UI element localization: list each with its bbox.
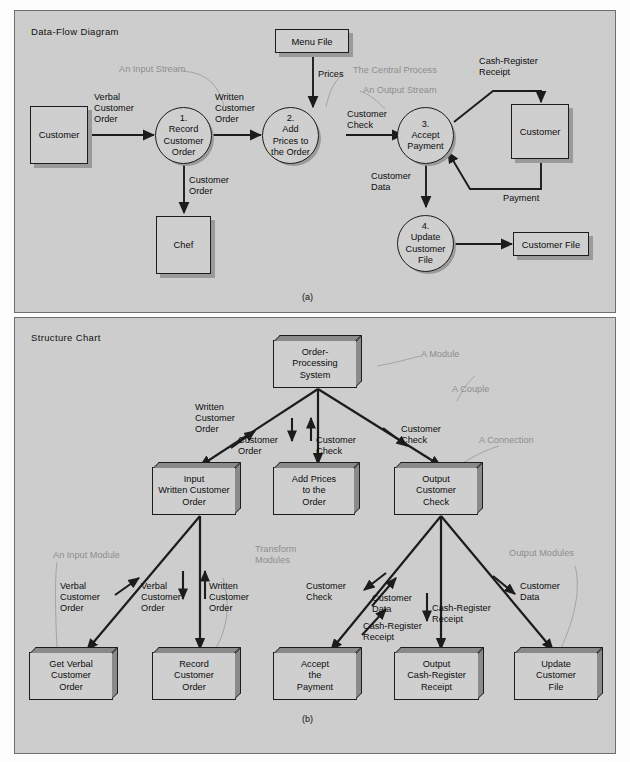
flow-prices: Prices	[318, 69, 344, 80]
flow-customer-order: Customer Order	[189, 175, 229, 197]
couple-verbal-customer-order-b: Verbal Customer Order	[141, 581, 181, 615]
couple-customer-data-b: Customer Data	[520, 581, 560, 603]
module-top-face	[395, 462, 483, 468]
annotation-an-input-module: An Input Module	[53, 550, 120, 561]
couple-customer-order-top: Customer Order	[238, 435, 278, 457]
annotation-transform-modules: Transform Modules	[255, 544, 297, 566]
module-top-face	[30, 647, 118, 653]
process-3-text: 3.Accept Payment	[407, 119, 443, 153]
process-3: 3.Accept Payment	[397, 107, 454, 164]
module-output-cash-register-receipt: Output Cash-Register Receipt	[394, 652, 479, 700]
module-label: Output Customer Check	[416, 474, 456, 508]
module-side-face	[235, 462, 241, 514]
couple-customer-data-a: Customer Data	[372, 593, 412, 615]
process-2: 2.Add Prices to the Order	[262, 107, 319, 164]
caption-b: (b)	[302, 714, 313, 724]
module-update-customer-file: Update Customer File	[514, 652, 598, 700]
module-top-face	[395, 647, 484, 653]
annotation-a-connection: A Connection	[479, 435, 534, 446]
module-label: Record Customer Order	[174, 659, 214, 693]
module-label: Accept the Payment	[297, 659, 333, 693]
caption-a: (a)	[302, 292, 313, 302]
process-2-text: 2.Add Prices to the Order	[271, 113, 310, 158]
couple-written-customer-order-top: Written Customer Order	[195, 402, 235, 436]
module-label: Add Prices to the Order	[292, 474, 336, 508]
figure-page: Data-Flow Diagram	[0, 0, 630, 762]
flow-cash-register-receipt: Cash-Register Receipt	[479, 56, 538, 78]
process-4-text: 4.Update Customer File	[406, 221, 446, 266]
entity-customer-right: Customer	[511, 104, 569, 159]
module-get-verbal-customer-order: Get Verbal Customer Order	[29, 652, 113, 700]
couple-customer-check-top: Customer Check	[316, 435, 356, 457]
annotation-a-module: A Module	[421, 349, 459, 360]
module-label: Input Written Customer Order	[158, 474, 229, 508]
module-side-face	[235, 647, 241, 699]
module-top-face	[274, 335, 362, 341]
module-top-face	[153, 647, 241, 653]
flow-customer-data: Customer Data	[371, 171, 411, 193]
couple-customer-check-right: Customer Check	[401, 424, 441, 446]
module-side-face	[356, 335, 362, 387]
panel-data-flow-diagram: Data-Flow Diagram	[14, 10, 616, 313]
module-side-face	[477, 462, 483, 514]
couple-verbal-customer-order-a: Verbal Customer Order	[60, 581, 100, 615]
flow-customer-check: Customer Check	[347, 109, 387, 131]
annotation-central-process: The Central Process	[353, 65, 437, 76]
module-top-face	[274, 462, 360, 468]
store-menu-file: Menu File	[275, 29, 349, 53]
module-side-face	[356, 647, 362, 699]
module-label: Output Cash-Register Receipt	[407, 659, 466, 693]
module-accept-the-payment: Accept the Payment	[273, 652, 357, 700]
module-order-processing-system: Order- Processing System	[273, 340, 357, 388]
module-input-written-customer-order: Input Written Customer Order	[152, 467, 236, 515]
entity-customer-left: Customer	[30, 106, 88, 164]
store-customer-file: Customer File	[513, 232, 589, 256]
flow-payment: Payment	[503, 193, 539, 204]
module-label: Update Customer File	[536, 659, 576, 693]
module-output-customer-check: Output Customer Check	[394, 467, 478, 515]
entity-chef: Chef	[156, 216, 211, 274]
flow-verbal-customer-order: Verbal Customer Order	[94, 92, 134, 126]
module-top-face	[515, 647, 603, 653]
module-side-face	[112, 647, 118, 699]
module-record-customer-order: Record Customer Order	[152, 652, 236, 700]
module-side-face	[354, 462, 360, 514]
module-add-prices-to-the-order: Add Prices to the Order	[273, 467, 355, 515]
module-side-face	[478, 647, 484, 699]
module-top-face	[153, 462, 241, 468]
module-side-face	[597, 647, 603, 699]
process-1-text: 1.Record Customer Order	[164, 113, 204, 158]
flow-written-customer-order: Written Customer Order	[215, 92, 255, 126]
process-1: 1.Record Customer Order	[155, 107, 212, 164]
couple-cash-register-receipt-a: Cash-Register Receipt	[363, 621, 422, 643]
annotation-output-stream: An Output Stream	[363, 85, 437, 96]
module-top-face	[274, 647, 362, 653]
module-label: Order- Processing System	[292, 347, 337, 381]
process-4: 4.Update Customer File	[397, 215, 454, 272]
panel-structure-chart: Structure Chart	[14, 317, 616, 754]
annotation-input-stream: An Input Stream	[119, 64, 185, 75]
couple-written-customer-order-b: Written Customer Order	[209, 581, 249, 615]
annotation-a-couple: A Couple	[452, 384, 489, 395]
couple-customer-check-low: Customer Check	[306, 581, 346, 603]
couple-cash-register-receipt-b: Cash-Register Receipt	[432, 603, 491, 625]
module-label: Get Verbal Customer Order	[49, 659, 92, 693]
annotation-output-modules: Output Modules	[509, 548, 574, 559]
